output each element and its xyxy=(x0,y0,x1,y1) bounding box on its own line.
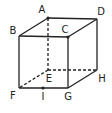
cube-edges xyxy=(0,0,112,113)
edge-ab xyxy=(19,18,48,36)
edge-cd xyxy=(68,19,97,37)
label-e: E xyxy=(46,74,52,84)
label-b: B xyxy=(10,26,17,36)
label-a: A xyxy=(39,5,46,15)
label-c: C xyxy=(62,25,69,35)
edge-bc xyxy=(19,36,68,37)
label-h: H xyxy=(98,74,106,84)
edge-ad xyxy=(48,18,97,19)
edge-ef xyxy=(19,70,48,88)
label-d: D xyxy=(97,7,105,17)
point-a xyxy=(46,16,49,19)
label-f: F xyxy=(10,91,16,101)
label-g: G xyxy=(64,92,72,102)
edge-gh xyxy=(68,70,97,88)
point-c xyxy=(66,35,69,38)
cube-diagram: A B C D E F G H I xyxy=(0,0,112,113)
label-i: I xyxy=(42,92,45,102)
point-i xyxy=(41,86,44,89)
